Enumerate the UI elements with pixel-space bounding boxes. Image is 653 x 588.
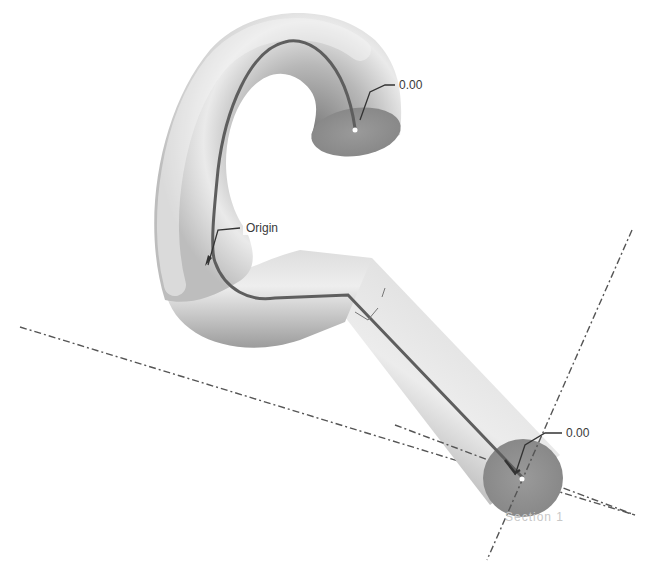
start-point-marker (353, 128, 358, 133)
end-point-marker (520, 477, 525, 482)
start-dimension-label[interactable]: 0.00 (399, 78, 423, 92)
section-label: Section 1 (505, 510, 564, 524)
cad-viewport[interactable]: 0.00 Origin 0.00 Section 1 (0, 0, 653, 588)
model-view: 0.00 Origin 0.00 Section 1 (0, 0, 653, 588)
end-dimension-label[interactable]: 0.00 (566, 426, 590, 440)
origin-label[interactable]: Origin (246, 221, 278, 235)
